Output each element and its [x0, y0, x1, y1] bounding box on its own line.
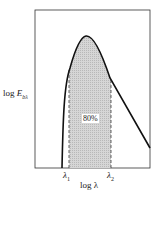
percent-annotation: 80%	[82, 114, 99, 123]
lambda1-label: λ1	[63, 170, 70, 182]
x-axis-label: log λ	[80, 180, 98, 190]
shaded-80-percent-area	[62, 36, 150, 168]
lambda2-label: λ2	[107, 170, 114, 182]
y-axis-label: log Ebλ	[3, 88, 28, 100]
